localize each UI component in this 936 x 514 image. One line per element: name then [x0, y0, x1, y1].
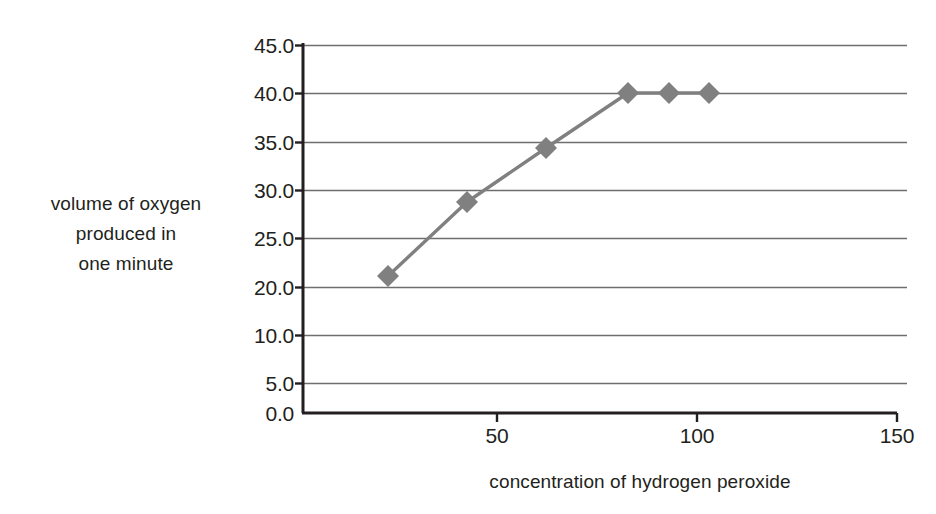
data-series — [377, 82, 720, 287]
data-point-marker — [698, 82, 720, 104]
x-axis-title: concentration of hydrogen peroxide — [360, 470, 920, 494]
gridlines — [303, 46, 907, 384]
data-point-marker — [617, 82, 639, 104]
tick-marks — [295, 46, 897, 423]
series-line — [388, 93, 709, 276]
chart-container: volume of oxygen produced in one minute … — [0, 0, 936, 514]
axis-lines — [302, 43, 897, 413]
data-point-marker — [535, 137, 557, 159]
plot-area — [0, 0, 936, 514]
data-point-marker — [658, 82, 680, 104]
